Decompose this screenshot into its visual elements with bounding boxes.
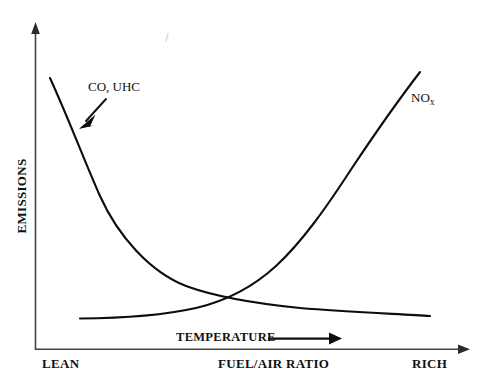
- x-axis-title: FUEL/AIR RATIO: [218, 357, 329, 370]
- series-label-co-uhc: CO, UHC: [88, 80, 140, 93]
- x-axis-tick-lean: LEAN: [42, 357, 79, 370]
- x-axis-tick-rich: RICH: [412, 357, 447, 370]
- y-axis-title: EMISSIONS: [15, 136, 28, 256]
- temperature-annotation-label: TEMPERATURE: [176, 331, 276, 344]
- series-label-nox: NOx: [411, 91, 435, 105]
- annotation-arrow-icon: [79, 99, 106, 129]
- axis-arrow-right-icon: [458, 344, 470, 354]
- temperature-arrow-icon: [268, 333, 342, 345]
- series-curve-co-uhc: [50, 78, 430, 316]
- nox-subscript: x: [430, 97, 435, 107]
- nox-base: NO: [411, 90, 430, 105]
- axis-arrow-up-icon: [31, 22, 40, 34]
- emissions-chart: EMISSIONS FUEL/AIR RATIO LEAN RICH TEMPE…: [0, 0, 488, 389]
- series-curve-nox: [80, 72, 420, 319]
